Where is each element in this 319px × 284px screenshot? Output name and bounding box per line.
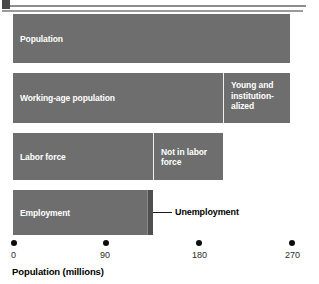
segment-population: Population	[13, 14, 290, 63]
bar-working-age-population: Working-age population Young and institu…	[13, 73, 290, 123]
axis-tick-label-90: 90	[100, 250, 110, 260]
segment-label-population: Population	[20, 33, 63, 44]
axis-tick-dot-0	[11, 240, 17, 246]
bar-labor-force: Labor force Not in labor force	[13, 133, 223, 180]
unemployment-callout-line	[153, 212, 172, 213]
segment-label-not-in-labor-force: Not in labor force	[161, 146, 207, 167]
axis-tick-dot-180	[196, 240, 202, 246]
segment-label-employment: Employment	[20, 207, 70, 218]
top-divider-rule-secondary	[2, 10, 303, 12]
axis-tick-label-0: 0	[11, 250, 16, 260]
bar-employment: Employment	[13, 190, 153, 235]
axis-tick-label-180: 180	[192, 250, 207, 260]
segment-label-labor-force: Labor force	[20, 151, 66, 162]
segment-working-age-population: Working-age population	[13, 73, 223, 123]
segment-employment: Employment	[13, 190, 147, 235]
axis-tick-dot-270	[289, 240, 295, 246]
axis-tick-dot-90	[103, 240, 109, 246]
labor-force-bar-chart: Population Working-age population Young …	[0, 0, 319, 284]
segment-label-young-and-institutionalized: Young and institution- alized	[231, 80, 274, 112]
top-divider-rule	[10, 5, 306, 7]
segment-label-working-age-population: Working-age population	[20, 93, 115, 104]
axis-title-population-millions: Population (millions)	[12, 266, 104, 277]
axis-tick-label-270: 270	[285, 250, 300, 260]
bar-population: Population	[13, 14, 290, 63]
unemployment-callout-label: Unemployment	[175, 207, 239, 217]
segment-young-and-institutionalized: Young and institution- alized	[223, 73, 290, 123]
segment-not-in-labor-force: Not in labor force	[153, 133, 223, 180]
segment-labor-force: Labor force	[13, 133, 153, 180]
